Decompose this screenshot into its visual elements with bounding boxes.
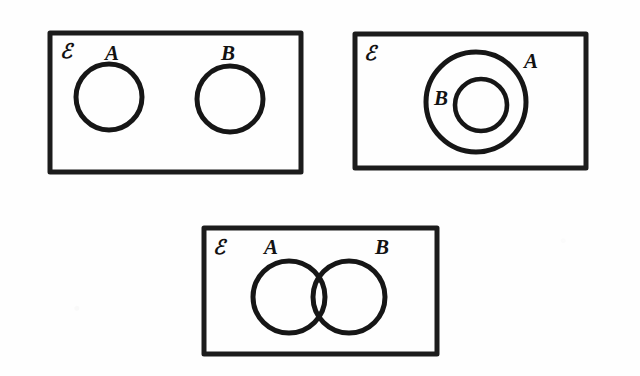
set-a-label: A [522,49,538,73]
panel-disjoint-canvas: ℰ A B [0,0,330,200]
set-b-label: B [433,86,448,110]
set-b-circle [455,79,507,131]
universal-set-label: ℰ [213,235,228,259]
set-b-circle [197,66,263,132]
panel-intersecting: ℰ A B [180,195,470,376]
set-a-circle [76,64,142,130]
universal-set-label: ℰ [364,41,379,65]
set-a-label: A [103,41,119,65]
universal-set-label: ℰ [60,39,75,63]
universal-set-rectangle [204,228,437,354]
panel-intersecting-canvas: ℰ A B [180,195,470,376]
set-b-label: B [220,41,235,65]
panel-subset: ℰ A B [330,0,640,200]
panel-subset-canvas: ℰ A B [330,0,640,200]
panel-disjoint: ℰ A B [0,0,330,200]
set-a-label: A [262,235,278,259]
venn-diagram-figure: ℰ A B ℰ A B ℰ A B [0,0,640,376]
set-b-label: B [374,235,389,259]
